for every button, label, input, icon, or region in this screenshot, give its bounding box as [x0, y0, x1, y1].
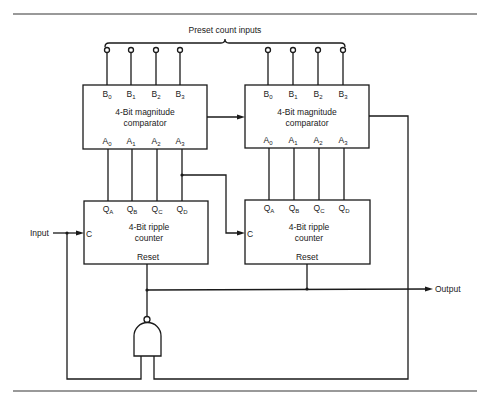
input-arrowhead-icon [76, 231, 84, 236]
svg-text:4-Bit ripple: 4-Bit ripple [129, 222, 170, 232]
svg-text:C: C [247, 229, 253, 239]
preset-terminals-left [105, 48, 183, 86]
svg-text:counter: counter [295, 233, 324, 243]
svg-text:comparator: comparator [286, 118, 329, 128]
cascade-arrowhead-icon [237, 115, 245, 120]
nand-gate-icon [134, 317, 161, 357]
svg-text:4-Bit magnitude: 4-Bit magnitude [115, 107, 175, 117]
preset-brace [105, 39, 345, 47]
output-wire [147, 289, 426, 290]
output-label: Output [435, 284, 461, 294]
svg-text:comparator: comparator [124, 118, 167, 128]
reset-junction-right [305, 287, 308, 290]
left-aq-wires [108, 149, 182, 201]
comparator-left: B0 B1 B2 B3 4-Bit magnitude comparator A… [83, 85, 207, 149]
svg-text:C: C [86, 229, 92, 239]
output-arrowhead-icon [425, 287, 433, 292]
comparator-right: B0 B1 B2 B3 4-Bit magnitude comparator A… [245, 85, 369, 148]
preset-label: Preset count inputs [189, 25, 262, 35]
svg-text:Reset: Reset [137, 252, 160, 262]
preset-terminals-right [266, 48, 346, 86]
counter-comparator-diagram: Preset count inputs B0 B1 B2 B3 4-Bit ma… [0, 0, 487, 399]
svg-text:4-Bit magnitude: 4-Bit magnitude [277, 107, 337, 117]
right-aq-wires [269, 148, 344, 200]
counter-left: QA QB QC QD 4-Bit ripple counter C Reset [84, 201, 208, 264]
input-label: Input [30, 228, 50, 238]
counter-right: QA QB QC QD 4-Bit ripple counter C Reset [245, 200, 370, 264]
reset-junction-left [145, 288, 148, 291]
clock-arrowhead-icon [237, 231, 245, 236]
svg-text:counter: counter [135, 233, 164, 243]
svg-text:4-Bit ripple: 4-Bit ripple [289, 222, 330, 232]
svg-text:Reset: Reset [296, 252, 319, 262]
